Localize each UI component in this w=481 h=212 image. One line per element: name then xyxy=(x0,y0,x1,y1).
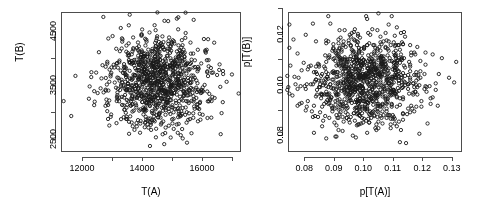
figure-canvas: 120001400016000250035004500 T(A) T(B) 0.… xyxy=(0,0,481,212)
x-axis-title-right: p[T(A)] xyxy=(288,186,462,197)
y-tick-label: 0.12 xyxy=(275,12,285,56)
x-tick xyxy=(452,157,453,161)
scatter-panel-right: 0.080.090.100.110.120.130.080.100.12 p[T… xyxy=(250,0,481,212)
y-tick xyxy=(278,8,283,9)
y-tick xyxy=(278,110,283,111)
x-axis-line xyxy=(304,157,451,158)
x-tick xyxy=(422,157,423,161)
x-tick xyxy=(334,157,335,161)
x-tick xyxy=(363,157,364,161)
x-tick xyxy=(304,157,305,161)
y-axis-title-right: p[T(B)] xyxy=(241,0,252,122)
y-tick-label: 0.10 xyxy=(275,63,285,107)
x-tick xyxy=(393,157,394,161)
x-tick-label: 0.13 xyxy=(422,163,481,173)
y-tick xyxy=(278,59,283,60)
y-tick-label: 0.08 xyxy=(275,113,285,157)
